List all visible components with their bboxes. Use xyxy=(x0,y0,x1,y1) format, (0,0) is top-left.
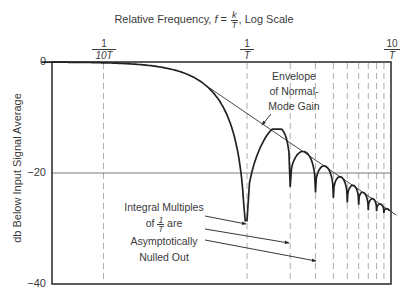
envelope-annotation: Envelope of Normal- Mode Gain xyxy=(264,69,324,114)
nulls-annot-line: Nulled Out xyxy=(120,249,208,265)
nulls-fraction: 1 T xyxy=(157,216,164,233)
nulls-annot-line: of 1 T are xyxy=(120,215,208,233)
gain-curve xyxy=(42,62,390,221)
nulls-of: of xyxy=(146,217,155,229)
nulls-annot-line: Integral Multiples xyxy=(120,199,208,215)
envelope-annot-line: Envelope xyxy=(264,69,324,84)
envelope-annot-line: Mode Gain xyxy=(264,99,324,114)
nulls-frac-den: T xyxy=(157,225,164,233)
nulls-annot-line: Asymptotically xyxy=(120,233,208,249)
null-arrow-2 xyxy=(205,229,289,243)
nulls-are: are xyxy=(167,217,182,229)
null-arrow-3 xyxy=(205,240,316,261)
nulls-annotation: Integral Multiples of 1 T are Asymptotic… xyxy=(120,199,208,265)
envelope-arrow xyxy=(262,114,271,125)
envelope-annot-line: of Normal- xyxy=(264,84,324,99)
null-arrow-1 xyxy=(205,216,246,224)
